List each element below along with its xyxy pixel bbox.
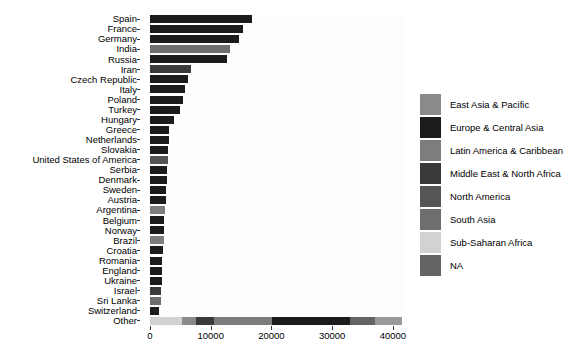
bar-row [150, 155, 405, 165]
y-axis-tick-mark [137, 210, 140, 211]
bar-row [150, 256, 405, 266]
bar-segment [150, 15, 252, 23]
legend-swatch [420, 209, 441, 230]
bar-row [150, 286, 405, 296]
y-axis-tick-label: Argentina [96, 205, 140, 215]
y-axis-tick: Italy [0, 84, 140, 94]
bar [150, 226, 164, 234]
x-axis-tick-label: 20000 [258, 331, 284, 341]
legend-label: North America [450, 192, 510, 202]
y-axis-tick-label: Germany [98, 34, 140, 44]
y-axis-tick-mark [137, 89, 140, 90]
bar-segment [350, 317, 376, 325]
bar-row [150, 165, 405, 175]
bar-row [150, 105, 405, 115]
x-axis-tick-label: 40000 [380, 331, 406, 341]
bar-segment [214, 317, 272, 325]
bar-segment [150, 236, 164, 244]
y-axis-tick-label: Spain [113, 14, 140, 24]
chart-container: SpainFranceGermanyIndiaRussiaIranCzech R… [0, 0, 578, 360]
y-axis-tick-mark [137, 190, 140, 191]
y-axis-tick: Norway [0, 225, 140, 235]
y-axis-tick-mark [137, 139, 140, 140]
bar-segment [150, 45, 230, 53]
y-axis-tick-label: Sweden [103, 185, 140, 195]
y-axis-tick-label: Belgium [103, 216, 140, 226]
y-axis-tick-mark [137, 149, 140, 150]
bar-segment [150, 106, 180, 114]
bar [150, 15, 252, 23]
bar-row [150, 95, 405, 105]
bar-segment [150, 216, 164, 224]
y-axis-tick-mark [137, 320, 140, 321]
bar [150, 85, 185, 93]
bar-row [150, 276, 405, 286]
y-axis-tick: Croatia [0, 245, 140, 255]
bar-segment [272, 317, 350, 325]
legend-item[interactable]: NA [420, 254, 575, 277]
bar-segment [150, 267, 162, 275]
y-axis-tick-label: Switzerland [88, 306, 140, 316]
y-axis-tick-mark [137, 109, 140, 110]
bar-segment [150, 146, 168, 154]
legend-item[interactable]: Europe & Central Asia [420, 116, 575, 139]
y-axis-tick-label: Czech Republic [70, 75, 140, 85]
y-axis-tick-mark [137, 39, 140, 40]
bar [150, 186, 166, 194]
bar-segment [375, 317, 402, 325]
legend-item[interactable]: South Asia [420, 208, 575, 231]
y-axis-tick-mark [137, 49, 140, 50]
legend-label: Latin America & Caribbean [450, 146, 563, 156]
y-axis-tick-mark [137, 250, 140, 251]
y-axis-tick-label: Slovakia [101, 145, 140, 155]
bar-row [150, 175, 405, 185]
y-axis-tick-mark [137, 270, 140, 271]
bar [150, 25, 243, 33]
bar [150, 277, 162, 285]
y-axis-tick-mark [137, 69, 140, 70]
y-axis-tick: Brazil [0, 235, 140, 245]
y-axis-tick-label: Greece [106, 125, 140, 135]
bar-segment [150, 126, 169, 134]
legend-swatch [420, 163, 441, 184]
bar-segment [150, 176, 167, 184]
legend-label: East Asia & Pacific [450, 100, 529, 110]
bar-row [150, 185, 405, 195]
bar-row [150, 54, 405, 64]
bar-row [150, 205, 405, 215]
bar-row [150, 296, 405, 306]
bar-row [150, 34, 405, 44]
y-axis-tick: Belgium [0, 215, 140, 225]
bar [150, 106, 180, 114]
x-axis: 010000200003000040000 [150, 326, 405, 346]
bar-segment [150, 317, 182, 325]
plot-panel [150, 14, 405, 326]
legend-swatch [420, 186, 441, 207]
bar [150, 206, 165, 214]
legend-item[interactable]: Latin America & Caribbean [420, 139, 575, 162]
y-axis-tick-mark [137, 240, 140, 241]
y-axis-tick-label: Denmark [98, 175, 140, 185]
bar-row [150, 14, 405, 24]
legend-label: Sub-Saharan Africa [450, 238, 532, 248]
y-axis-tick: Argentina [0, 205, 140, 215]
legend-item[interactable]: East Asia & Pacific [420, 93, 575, 116]
legend-item[interactable]: Middle East & North Africa [420, 162, 575, 185]
bar [150, 216, 164, 224]
bar-segment [150, 297, 161, 305]
bar-row [150, 115, 405, 125]
bar-row [150, 225, 405, 235]
y-axis-tick: Other [0, 316, 140, 326]
bar-row [150, 135, 405, 145]
bar [150, 65, 191, 73]
y-axis-tick-mark [137, 220, 140, 221]
y-axis-tick-label: Brazil [113, 236, 140, 246]
plot-area: SpainFranceGermanyIndiaRussiaIranCzech R… [0, 0, 410, 345]
y-axis-tick-mark [137, 129, 140, 130]
legend-item[interactable]: Sub-Saharan Africa [420, 231, 575, 254]
y-axis-tick-label: Ukraine [104, 276, 140, 286]
bar [150, 55, 227, 63]
legend-item[interactable]: North America [420, 185, 575, 208]
y-axis-tick-label: Netherlands [86, 135, 140, 145]
bar [150, 236, 164, 244]
